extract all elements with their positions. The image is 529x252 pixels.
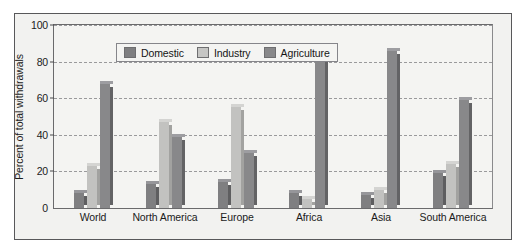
chart-figure: Percent of total withdrawals 02040608010… <box>14 13 512 240</box>
bar-group-south-america <box>416 25 488 208</box>
bar-domestic-north-america <box>146 181 159 208</box>
bar-domestic-south-america <box>433 170 446 208</box>
y-tick-label-80: 80 <box>37 56 48 68</box>
legend-item-industry: Industry <box>197 47 251 59</box>
x-axis-label-asia: Asia <box>345 211 417 223</box>
x-axis-labels: WorldNorth AmericaEuropeAfricaAsiaSouth … <box>53 211 493 223</box>
legend-item-domestic: Domestic <box>124 47 184 59</box>
x-axis-label-africa: Africa <box>273 211 345 223</box>
bar-front-face <box>218 182 228 208</box>
bar-front-face <box>244 153 254 208</box>
y-tick-label-60: 60 <box>37 92 48 104</box>
bar-agriculture-north-america <box>172 134 185 208</box>
bar-front-face <box>459 100 469 208</box>
legend-swatch-domestic <box>124 47 136 58</box>
bar-domestic-asia <box>361 192 374 208</box>
bar-industry-north-america <box>159 119 172 208</box>
bar-front-face <box>361 195 371 208</box>
bar-domestic-africa <box>289 190 302 208</box>
bar-side-face <box>325 50 328 205</box>
bar-industry-asia <box>374 187 387 208</box>
bar-agriculture-south-america <box>459 97 472 208</box>
y-tick-label-0: 0 <box>42 202 48 214</box>
bar-front-face <box>315 47 325 208</box>
bar-side-face <box>254 156 257 205</box>
bar-side-face <box>397 54 400 205</box>
legend-swatch-agriculture <box>264 47 276 58</box>
bar-front-face <box>446 164 456 208</box>
bar-front-face <box>87 166 97 208</box>
bar-front-face <box>289 193 299 208</box>
y-tick-label-100: 100 <box>31 19 48 31</box>
bar-domestic-world <box>74 190 87 208</box>
bar-agriculture-europe <box>244 150 257 208</box>
bar-domestic-europe <box>218 179 231 208</box>
bar-front-face <box>433 173 443 208</box>
legend-item-agriculture: Agriculture <box>264 47 330 59</box>
bar-industry-europe <box>231 104 244 208</box>
chart-legend: Domestic Industry Agriculture <box>116 43 338 62</box>
bar-front-face <box>74 193 84 208</box>
bar-side-face <box>469 103 472 205</box>
bar-industry-africa <box>302 196 315 208</box>
bar-front-face <box>100 84 110 208</box>
y-axis-title: Percent of total withdrawals <box>13 54 25 180</box>
bar-front-face <box>387 51 397 208</box>
bar-front-face <box>231 107 241 208</box>
bar-industry-south-america <box>446 161 459 208</box>
bar-agriculture-world <box>100 81 113 208</box>
legend-label-agriculture: Agriculture <box>281 47 330 59</box>
bar-front-face <box>159 122 169 208</box>
legend-swatch-industry <box>197 47 209 58</box>
bar-agriculture-asia <box>387 48 400 208</box>
x-axis-label-north-america: North America <box>129 211 201 223</box>
bar-group-asia <box>345 25 417 208</box>
bar-industry-world <box>87 163 100 208</box>
bar-front-face <box>302 199 312 208</box>
x-axis-label-world: World <box>57 211 129 223</box>
x-axis-label-south-america: South America <box>417 211 489 223</box>
bar-front-face <box>374 190 384 208</box>
bar-side-face <box>110 87 113 205</box>
legend-label-industry: Industry <box>214 47 251 59</box>
bar-front-face <box>146 184 156 208</box>
y-tick-label-20: 20 <box>37 165 48 177</box>
plot-area: 020406080100 Domestic Industry Agricultu… <box>53 24 493 209</box>
bar-front-face <box>172 137 182 208</box>
x-axis-label-europe: Europe <box>201 211 273 223</box>
y-tick-label-40: 40 <box>37 129 48 141</box>
legend-label-domestic: Domestic <box>141 47 184 59</box>
bar-agriculture-africa <box>315 44 328 208</box>
bar-side-face <box>182 140 185 205</box>
